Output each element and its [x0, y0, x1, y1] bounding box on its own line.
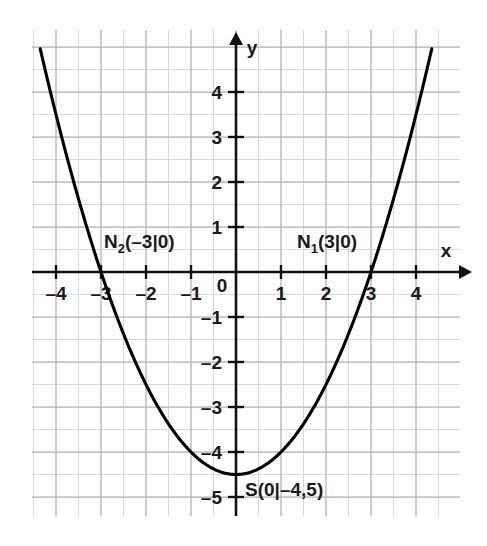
y-tick-label--3: –3: [201, 397, 222, 418]
annotation-root-1-subscript: 1: [311, 241, 318, 256]
y-axis-label: y: [247, 37, 258, 58]
y-tick-label-3: 3: [211, 127, 222, 148]
annotation-vertex-coords: (0|–4,5): [258, 479, 324, 500]
annotation-vertex: S(0|–4,5): [245, 479, 323, 500]
y-tick-label-2: 2: [211, 172, 222, 193]
svg-text:S(0|–4,5): S(0|–4,5): [245, 479, 323, 500]
annotation-root-1-coords: (3|0): [318, 231, 357, 252]
x-tick-label-4: 4: [411, 283, 422, 304]
x-tick-label--4: –4: [45, 283, 67, 304]
annotation-root-2-subscript: 2: [118, 241, 125, 256]
y-tick-label-1: 1: [211, 217, 222, 238]
annotation-root-2-coords: (–3|0): [125, 231, 175, 252]
annotation-root-1-base: N: [297, 231, 311, 252]
x-tick-label--1: –1: [180, 283, 202, 304]
y-tick-label--5: –5: [201, 487, 223, 508]
coordinate-plane-svg: –4–3–2–112344321–1–2–3–4–5 0 x y N2(–3|0…: [0, 0, 487, 546]
annotation-root-2-base: N: [104, 231, 118, 252]
y-tick-label-4: 4: [211, 82, 222, 103]
x-tick-label-1: 1: [276, 283, 287, 304]
x-axis-label: x: [441, 240, 452, 261]
x-tick-label-2: 2: [321, 283, 332, 304]
origin-label: 0: [217, 275, 228, 296]
graph-canvas: –4–3–2–112344321–1–2–3–4–5 0 x y N2(–3|0…: [0, 0, 487, 546]
y-tick-label--2: –2: [201, 352, 222, 373]
x-tick-label--2: –2: [135, 283, 156, 304]
annotation-vertex-base: S: [245, 479, 258, 500]
y-tick-label--4: –4: [201, 442, 223, 463]
y-tick-label--1: –1: [201, 307, 223, 328]
